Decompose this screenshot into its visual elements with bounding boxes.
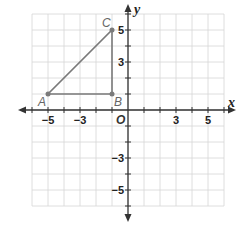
y-tick-label: 5: [118, 24, 124, 36]
y-tick-label: 3: [118, 56, 124, 68]
point-label-b: B: [114, 95, 122, 109]
y-axis-label: y: [132, 2, 141, 17]
y-tick-label: −5: [111, 184, 124, 196]
axes: [18, 4, 236, 222]
x-tick-label: −5: [42, 114, 55, 126]
point-label-c: C: [102, 16, 111, 30]
coordinate-plane: −5−33553−3−5 ABC x y O: [0, 0, 247, 225]
x-tick-label: −3: [74, 114, 87, 126]
x-tick-label: 5: [205, 114, 211, 126]
point-label-a: A: [37, 95, 46, 109]
point-a: [46, 92, 51, 97]
x-tick-label: 3: [173, 114, 179, 126]
y-tick-label: −3: [111, 152, 124, 164]
origin-label: O: [116, 113, 126, 127]
x-axis-label: x: [227, 95, 235, 110]
